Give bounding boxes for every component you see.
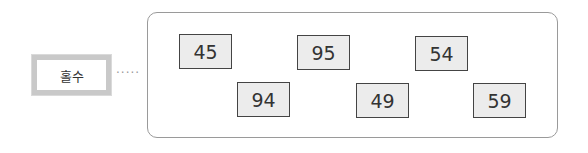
number-group-box [147,12,558,138]
category-label-box[interactable]: 홀수 [32,55,111,95]
number-value: 45 [193,41,217,63]
number-card[interactable]: 45 [179,34,232,69]
number-value: 49 [370,90,394,112]
number-card[interactable]: 54 [415,36,468,71]
number-value: 54 [429,43,453,65]
number-value: 94 [251,89,275,111]
number-card[interactable]: 95 [297,35,350,70]
number-value: 59 [487,90,511,112]
number-value: 95 [311,42,335,64]
number-card[interactable]: 59 [473,83,526,118]
number-card[interactable]: 94 [237,82,290,117]
category-label: 홀수 [60,66,84,85]
number-card[interactable]: 49 [356,83,409,118]
dotted-connector: ····· [116,66,140,80]
